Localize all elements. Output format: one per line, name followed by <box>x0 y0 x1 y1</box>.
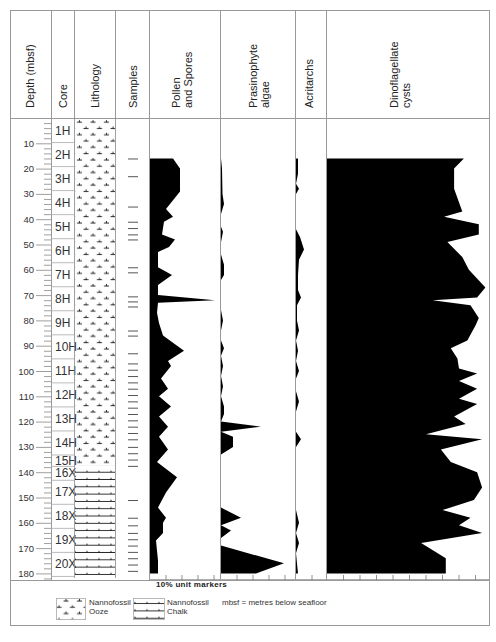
header-dino-line2: cysts <box>400 82 412 108</box>
depth-tick-label: 30 <box>23 188 34 199</box>
core-label: 3H <box>55 172 70 186</box>
legend: Nannofossil Ooze Nannofossil Chalk mbsf … <box>57 598 328 620</box>
curve-dinoflagellate-cysts <box>327 159 485 574</box>
unit-marker-label: 10% unit markers <box>156 580 227 589</box>
depth-tick-label: 130 <box>18 441 34 452</box>
lithology-column <box>75 118 116 578</box>
lithology-chalk <box>75 466 115 576</box>
legend-ooze-line2: Ooze <box>89 607 109 616</box>
depth-tick-label: 80 <box>23 315 34 326</box>
depth-tick-label: 150 <box>18 492 34 503</box>
header-pollen-line1: Pollen <box>170 77 182 108</box>
core-label: 4H <box>55 196 70 210</box>
core-label: 19X <box>55 533 76 547</box>
core-label: 9H <box>55 316 70 330</box>
depth-axis: 1020304050607080901001101201301401501601… <box>18 124 51 579</box>
depth-tick-label: 50 <box>23 239 34 250</box>
header-core: Core <box>57 84 69 108</box>
depth-tick-label: 40 <box>23 214 34 225</box>
core-label: 1H <box>55 124 70 138</box>
depth-tick-label: 180 <box>18 568 34 579</box>
depth-tick-label: 60 <box>23 264 34 275</box>
legend-chalk: Nannofossil Chalk <box>134 598 210 620</box>
depth-tick-label: 160 <box>18 517 34 528</box>
core-label: 13H <box>55 412 77 426</box>
core-label: 8H <box>55 292 70 306</box>
samples-column <box>128 159 138 571</box>
chalk-swatch <box>134 599 165 620</box>
depth-tick-label: 100 <box>18 366 34 377</box>
header-samples: Samples <box>127 65 139 108</box>
header-pollen-line2: and Spores <box>182 51 194 108</box>
legend-ooze: Nannofossil Ooze <box>57 598 132 620</box>
core-label: 12H <box>55 388 77 402</box>
core-label: 10H <box>55 340 77 354</box>
curve-prasinophyte-algae <box>221 159 284 574</box>
abundance-curves <box>150 159 485 574</box>
header-depth: Depth (mbsf) <box>24 44 36 108</box>
legend-chalk-line1: Nannofossil <box>167 598 209 607</box>
legend-abbreviation: mbsf = metres below seafloor <box>222 598 327 607</box>
depth-tick-label: 70 <box>23 290 34 301</box>
depth-tick-label: 90 <box>23 340 34 351</box>
core-label: 14H <box>55 436 77 450</box>
lithology-ooze <box>75 118 115 466</box>
ooze-swatch <box>57 599 86 620</box>
legend-chalk-line2: Chalk <box>167 607 188 616</box>
header-prasino-line2: algae <box>259 81 271 108</box>
header-acritarchs: Acritarchs <box>303 59 315 108</box>
curve-pollen-and-spores <box>150 159 215 574</box>
header-dino-line1: Dinoflagellate <box>388 41 400 108</box>
column-headers: Depth (mbsf) Core Lithology Samples Poll… <box>24 41 412 108</box>
core-label: 18X <box>55 509 76 523</box>
core-label: 20X <box>55 557 76 571</box>
core-label: 2H <box>55 148 70 162</box>
core-label: 7H <box>55 268 70 282</box>
depth-tick-label: 140 <box>18 467 34 478</box>
depth-tick-label: 110 <box>19 391 34 402</box>
legend-ooze-line1: Nannofossil <box>89 598 131 607</box>
depth-tick-label: 120 <box>18 416 34 427</box>
header-lithology: Lithology <box>89 63 101 108</box>
depth-tick-label: 20 <box>23 163 34 174</box>
palynology-chart: Depth (mbsf) Core Lithology Samples Poll… <box>0 0 496 642</box>
curve-acritarchs <box>296 159 304 574</box>
core-label: 5H <box>55 220 70 234</box>
depth-tick-label: 170 <box>18 543 34 554</box>
depth-tick-label: 10 <box>23 138 34 149</box>
core-column: 1H2H3H4H5H6H7H8H9H10H11H12H13H14H15H16X1… <box>51 118 77 578</box>
core-label: 11H <box>55 364 76 378</box>
core-label: 16X <box>55 466 76 480</box>
core-label: 17X <box>55 485 76 499</box>
core-label: 6H <box>55 244 70 258</box>
header-prasino-line1: Prasinophyte <box>247 44 259 108</box>
